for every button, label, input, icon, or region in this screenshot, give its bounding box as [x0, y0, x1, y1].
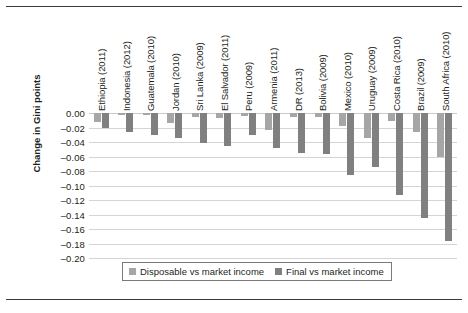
top-divider-rule [6, 6, 462, 7]
bar [339, 113, 346, 126]
y-axis-title: Change in Gini points [31, 54, 42, 194]
bar-group [432, 113, 457, 258]
bar [94, 113, 101, 122]
y-axis-tick-label: –0.06 [43, 151, 85, 162]
bar-group [138, 113, 163, 258]
bar [437, 113, 444, 157]
bar [290, 113, 297, 117]
bar [323, 113, 330, 154]
x-axis-category-label: Costa Rica (2010) [390, 36, 401, 111]
bar [445, 113, 452, 241]
bar [413, 113, 420, 132]
x-axis-category: Mexico (2010) [334, 10, 359, 113]
gridline [89, 258, 457, 259]
x-axis-category: Armenia (2011) [261, 10, 286, 113]
x-axis-category-label: Indonesia (2012) [120, 41, 131, 111]
bar [216, 113, 223, 118]
bar-group [236, 113, 261, 258]
x-axis-category: Peru (2009) [236, 10, 261, 113]
y-axis-tick-label: –0.02 [43, 122, 85, 133]
x-axis-category: Jordan (2010) [163, 10, 188, 113]
bar-group [310, 113, 335, 258]
y-axis-tick-label: –0.16 [43, 224, 85, 235]
y-axis-tick-label: –0.14 [43, 209, 85, 220]
x-axis-category-label: South Africa (2010) [439, 32, 450, 111]
bar [372, 113, 379, 167]
bar [224, 113, 231, 146]
bar [421, 113, 428, 218]
x-axis-category-label: Uruguay (2009) [366, 46, 377, 111]
bar-group [359, 113, 384, 258]
x-axis-category-label: Peru (2009) [243, 62, 254, 111]
x-axis-category: South Africa (2010) [432, 10, 457, 113]
legend-item: Final vs market income [275, 266, 384, 277]
x-axis-category-label: Mexico (2010) [341, 52, 352, 111]
bar [249, 113, 256, 135]
x-axis-category-label: Ethiopia (2011) [96, 49, 107, 111]
plot-area [89, 113, 457, 258]
x-axis-category: Costa Rica (2010) [383, 10, 408, 113]
bar [241, 113, 248, 116]
bar [151, 113, 158, 135]
bar-groups [89, 113, 457, 258]
bar [118, 113, 125, 115]
x-axis-category-label: Jordan (2010) [169, 53, 180, 111]
bar-chart: Change in Gini points 0.00–0.02–0.04–0.0… [0, 10, 468, 295]
x-axis-category-label: Armenia (2011) [267, 48, 278, 111]
bar-group [114, 113, 139, 258]
x-axis-category-label: Brazil (2009) [415, 58, 426, 111]
bar [273, 113, 280, 148]
x-axis-category: Ethiopia (2011) [89, 10, 114, 113]
bar [315, 113, 322, 117]
bar [347, 113, 354, 175]
bar-group [163, 113, 188, 258]
bar [102, 113, 109, 128]
x-axis-category: Guatemala (2010) [138, 10, 163, 113]
bar-group [383, 113, 408, 258]
chart-page: Change in Gini points 0.00–0.02–0.04–0.0… [0, 0, 468, 313]
x-axis-category: Brazil (2009) [408, 10, 433, 113]
bar-group [212, 113, 237, 258]
y-axis-tick-label: –0.08 [43, 166, 85, 177]
legend-swatch-icon [275, 268, 282, 275]
bar [192, 113, 199, 117]
bottom-divider-rule [6, 299, 462, 300]
x-axis-category: Indonesia (2012) [114, 10, 139, 113]
y-axis-tick-label: –0.12 [43, 195, 85, 206]
bar [388, 113, 395, 121]
x-axis-category-labels: Ethiopia (2011)Indonesia (2012)Guatemala… [89, 10, 457, 113]
bar [396, 113, 403, 195]
x-axis-category: Sri Lanka (2009) [187, 10, 212, 113]
legend-swatch-icon [129, 268, 136, 275]
x-axis-category-label: Bolivia (2009) [317, 54, 328, 111]
bar [265, 113, 272, 130]
y-axis-tick-label: –0.18 [43, 238, 85, 249]
y-axis-tick-label: –0.10 [43, 180, 85, 191]
bar [167, 113, 174, 123]
y-axis-tick-labels: 0.00–0.02–0.04–0.06–0.08–0.10–0.12–0.14–… [43, 113, 85, 258]
legend-label: Disposable vs market income [140, 266, 264, 277]
bar [175, 113, 182, 138]
bar-group [334, 113, 359, 258]
x-axis-category: DR (2013) [285, 10, 310, 113]
x-axis-category: Uruguay (2009) [359, 10, 384, 113]
x-axis-category-label: DR (2013) [292, 68, 303, 111]
bar-group [261, 113, 286, 258]
x-axis-category-label: Sri Lanka (2009) [194, 42, 205, 111]
bar [143, 113, 150, 115]
legend-item: Disposable vs market income [129, 266, 264, 277]
bar-group [285, 113, 310, 258]
bar [364, 113, 371, 138]
bar [126, 113, 133, 132]
y-axis-tick-label: 0.00 [43, 108, 85, 119]
chart-legend: Disposable vs market incomeFinal vs mark… [122, 262, 392, 281]
bar-group [408, 113, 433, 258]
x-axis-category: El Salvador (2011) [212, 10, 237, 113]
bar-group [89, 113, 114, 258]
bar [298, 113, 305, 153]
bar-group [187, 113, 212, 258]
x-axis-category-label: Guatemala (2010) [145, 36, 156, 111]
x-axis-category: Bolivia (2009) [310, 10, 335, 113]
x-axis-category-label: El Salvador (2011) [218, 35, 229, 111]
y-axis-tick-label: –0.04 [43, 137, 85, 148]
